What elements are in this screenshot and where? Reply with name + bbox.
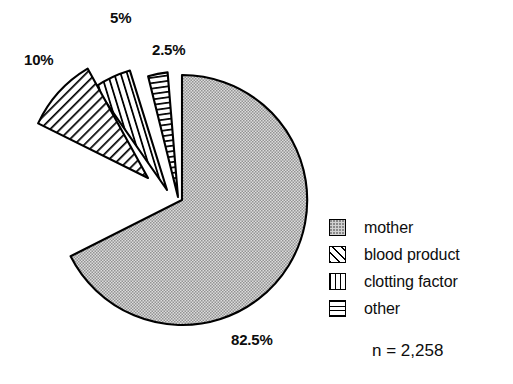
legend-item-mother[interactable]: mother	[329, 214, 509, 241]
slice-label-blood-product: 10%	[24, 51, 53, 68]
horizontal-lines-swatch-icon	[329, 300, 346, 317]
slice-label-mother: 82.5%	[231, 331, 273, 348]
pie-chart-graphic	[0, 0, 513, 384]
legend-item-other[interactable]: other	[329, 295, 509, 322]
stipple-swatch-icon	[329, 219, 346, 236]
diagonal-lines-swatch-icon	[329, 246, 346, 263]
legend-label-other: other	[364, 300, 400, 318]
slice-label-other: 2.5%	[152, 41, 185, 58]
slice-label-clotting-factor: 5%	[110, 9, 131, 26]
chart-legend: mother blood product clotting factor oth…	[329, 214, 509, 322]
legend-item-blood-product[interactable]: blood product	[329, 241, 509, 268]
legend-label-blood-product: blood product	[364, 246, 460, 264]
legend-label-mother: mother	[364, 219, 413, 237]
legend-label-clotting-factor: clotting factor	[364, 273, 458, 291]
legend-item-clotting-factor[interactable]: clotting factor	[329, 268, 509, 295]
vertical-lines-swatch-icon	[329, 273, 346, 290]
pie-chart-figure: 10% 5% 2.5% 82.5% mother blood product c…	[0, 0, 513, 384]
sample-size-note: n = 2,258	[372, 341, 443, 361]
